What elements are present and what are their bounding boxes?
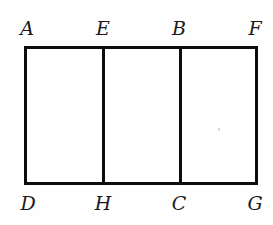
vertex-label-F: F [242,19,268,38]
divider-segment-BC [179,46,182,185]
scan-artifact-speck [218,128,220,131]
vertex-label-B: B [166,19,192,38]
vertex-label-H: H [90,194,116,213]
vertex-label-C: C [166,194,192,213]
outer-rectangle [24,46,258,185]
vertex-label-G: G [242,194,268,213]
vertex-label-A: A [14,19,40,38]
vertex-label-D: D [15,194,41,213]
divider-segment-EH [102,46,105,185]
geometry-figure: A E B F D H C G [0,0,273,225]
vertex-label-E: E [90,19,116,38]
